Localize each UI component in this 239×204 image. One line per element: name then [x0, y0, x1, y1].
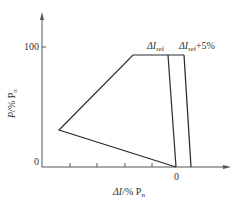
delta-i-ref-plus-5-line: [184, 55, 191, 167]
delta-i-ref-line: [168, 55, 176, 167]
x-minor-ticks: [70, 163, 152, 167]
y-axis-label-var: P: [6, 112, 17, 118]
x-axis-arrow-icon: [223, 165, 231, 169]
curve-label-ref-prefix: ΔI: [147, 40, 156, 51]
curve-label-ref-plus-sub: ref: [188, 45, 196, 53]
y-axis-arrow-icon: [40, 12, 44, 20]
curve-label-ref-plus: ΔIref+5%: [179, 41, 215, 54]
curve-label-ref-plus-suffix: +5%: [196, 40, 215, 51]
curve-label-ref: ΔIref: [147, 41, 164, 54]
x-axis-label-sub: n: [141, 191, 145, 199]
curve-label-ref-plus-prefix: ΔI: [179, 40, 188, 51]
y-axis-label-sub: n: [11, 89, 19, 93]
y-origin-label: 0: [34, 157, 39, 167]
x-zero-label: 0: [174, 172, 179, 182]
y-tick-label-100: 100: [24, 42, 39, 52]
x-axis-label-unit: /% P: [122, 186, 141, 197]
x-axis-label-var: ΔI: [113, 186, 122, 197]
y-axis-label-unit: /% P: [6, 93, 17, 112]
boundary-curve: [59, 55, 184, 167]
y-axis-label: P/% Pn: [6, 89, 19, 118]
x-axis-label: ΔI/% Pn: [113, 187, 145, 200]
curve-label-ref-sub: ref: [156, 45, 164, 53]
diagram-canvas: [0, 0, 239, 204]
